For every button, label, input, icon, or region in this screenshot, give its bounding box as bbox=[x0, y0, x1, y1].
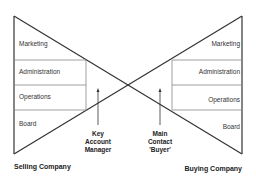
buying-layer-board: Board bbox=[223, 124, 240, 131]
key-account-manager-line-3: Manager bbox=[78, 146, 118, 154]
key-account-manager-line-2: Account bbox=[78, 138, 118, 146]
key-account-manager-line-1: Key bbox=[78, 130, 118, 138]
main-contact-line-1: Main bbox=[140, 130, 180, 138]
key-account-manager-label: Key Account Manager bbox=[78, 130, 118, 153]
selling-layer-administration: Administration bbox=[19, 69, 60, 76]
selling-layer-board: Board bbox=[19, 121, 36, 128]
bow-tie-diagram-lines bbox=[0, 0, 256, 182]
key-account-manager-arrow-icon bbox=[97, 88, 100, 125]
selling-layer-operations: Operations bbox=[19, 94, 51, 101]
selling-company-label: Selling Company bbox=[14, 163, 71, 170]
buying-layer-marketing: Marketing bbox=[211, 41, 240, 48]
main-contact-line-3: 'Buyer' bbox=[140, 146, 180, 154]
main-contact-line-2: Contact bbox=[140, 138, 180, 146]
buying-layer-administration: Administration bbox=[199, 69, 240, 76]
buying-layer-operations: Operations bbox=[208, 97, 240, 104]
main-contact-buyer-label: Main Contact 'Buyer' bbox=[140, 130, 180, 153]
buying-company-label: Buying Company bbox=[184, 165, 242, 172]
selling-layer-marketing: Marketing bbox=[19, 41, 48, 48]
main-contact-arrow-icon bbox=[159, 88, 162, 125]
